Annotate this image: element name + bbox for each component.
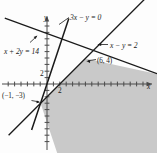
shaded-feasible-region	[41, 58, 157, 153]
graph-figure: 3x − y = 0 x − y = 2 x + 2y = 14 (6, 4) …	[0, 0, 157, 153]
vertex-label-minus1-minus3: (−1, −3)	[2, 92, 25, 100]
line-label-x-plus-2y-equals-14: x + 2y = 14	[4, 47, 39, 56]
line-label-x-minus-y-equals-2: x − y = 2	[110, 41, 137, 50]
y-axis-label: y	[44, 13, 47, 22]
x-axis-label: x	[147, 82, 150, 91]
pointer-arrowhead-vertex-m1-m3	[36, 100, 40, 103]
x-axis-tick-label-2: 2	[58, 86, 62, 95]
line-label-3x-minus-y-equals-0: 3x − y = 0	[70, 13, 101, 22]
vertex-label-6-4: (6, 4)	[97, 57, 112, 65]
y-axis-tick-label-2: 2	[40, 69, 44, 78]
coordinate-plot	[0, 0, 157, 153]
